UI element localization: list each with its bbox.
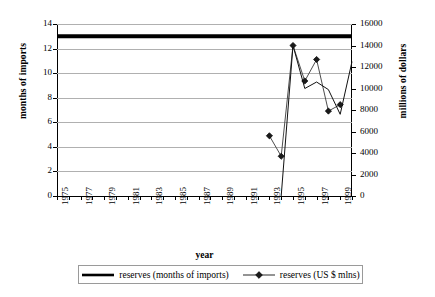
x-axis-tick-mark (57, 196, 58, 200)
y-axis-left-tick-mark (53, 122, 57, 123)
y-axis-left-tick-mark (53, 147, 57, 148)
x-axis-title: year (57, 250, 352, 260)
x-axis-tick-label: 1977 (85, 171, 94, 205)
y-axis-right-tick-mark (352, 67, 356, 68)
y-axis-right-tick-label: 6000 (360, 127, 400, 136)
x-axis-tick-label: 1991 (250, 171, 259, 205)
y-axis-left-tick-mark (53, 73, 57, 74)
x-axis-tick-label: 1993 (273, 171, 282, 205)
x-axis-tick-label: 1989 (226, 171, 235, 205)
y-axis-right-tick-label: 16000 (360, 19, 400, 28)
gridline (57, 98, 352, 99)
x-axis-tick-mark (317, 196, 318, 200)
y-axis-right-tick-mark (352, 110, 356, 111)
x-axis-tick-label: 1995 (297, 171, 306, 205)
x-axis-tick-mark (104, 196, 105, 200)
y-axis-right-tick-label: 2000 (360, 170, 400, 179)
y-axis-right-tick-mark (352, 153, 356, 154)
x-axis-tick-mark (340, 196, 341, 200)
y-axis-right-tick-mark (352, 46, 356, 47)
x-axis-tick-mark (246, 196, 247, 200)
x-axis-tick-mark (199, 196, 200, 200)
x-axis-tick-label: 1997 (321, 171, 330, 205)
y-axis-right-tick-label: 14000 (360, 41, 400, 50)
x-axis-tick-label: 1985 (179, 171, 188, 205)
x-axis-tick-label: 1999 (344, 171, 353, 205)
diamond-line-icon (242, 270, 276, 280)
x-axis-tick-mark (293, 196, 294, 200)
gridline (57, 122, 352, 123)
x-axis-tick-label: 1975 (61, 171, 70, 205)
y-axis-left-tick-mark (53, 49, 57, 50)
chart-legend: reserves (months of imports) reserves (U… (78, 265, 363, 284)
x-axis-tick-mark (128, 196, 129, 200)
x-axis-tick-mark (222, 196, 223, 200)
thick-line-icon (81, 270, 115, 280)
x-axis-tick-label: 1981 (132, 171, 141, 205)
legend-label-months: reserves (months of imports) (119, 270, 229, 280)
y-axis-right-tick-label: 0 (360, 191, 400, 200)
x-axis-tick-label: 1979 (108, 171, 117, 205)
y-axis-right-tick-label: 8000 (360, 105, 400, 114)
y-axis-right-tick-label: 10000 (360, 84, 400, 93)
y-axis-left-tick-mark (53, 98, 57, 99)
legend-label-dollars: reserves (US $ mlns) (280, 270, 360, 280)
x-axis-tick-mark (81, 196, 82, 200)
x-axis-tick-label: 1983 (155, 171, 164, 205)
y-axis-left-tick-mark (53, 24, 57, 25)
y-axis-right-title: millions of dollars (398, 11, 408, 151)
gridline (57, 73, 352, 74)
x-axis-tick-mark (175, 196, 176, 200)
y-axis-right-tick-label: 4000 (360, 148, 400, 157)
x-axis-tick-mark (151, 196, 152, 200)
reserves-dual-axis-chart: 02468101214 0200040006000800010000120001… (0, 0, 435, 297)
y-axis-left-tick-label: 0 (22, 191, 52, 200)
y-axis-left-tick-label: 2 (22, 166, 52, 175)
y-axis-right-tick-label: 12000 (360, 62, 400, 71)
x-axis-tick-label: 1987 (203, 171, 212, 205)
gridline (57, 147, 352, 148)
legend-item-months: reserves (months of imports) (81, 270, 229, 280)
x-axis-tick-mark (269, 196, 270, 200)
legend-item-dollars: reserves (US $ mlns) (242, 270, 360, 280)
y-axis-left-tick-mark (53, 171, 57, 172)
gridline (57, 24, 352, 25)
gridline (57, 49, 352, 50)
y-axis-right-tick-mark (352, 132, 356, 133)
y-axis-right-tick-mark (352, 89, 356, 90)
y-axis-left-title: months of imports (18, 11, 28, 151)
y-axis-right-tick-mark (352, 24, 356, 25)
